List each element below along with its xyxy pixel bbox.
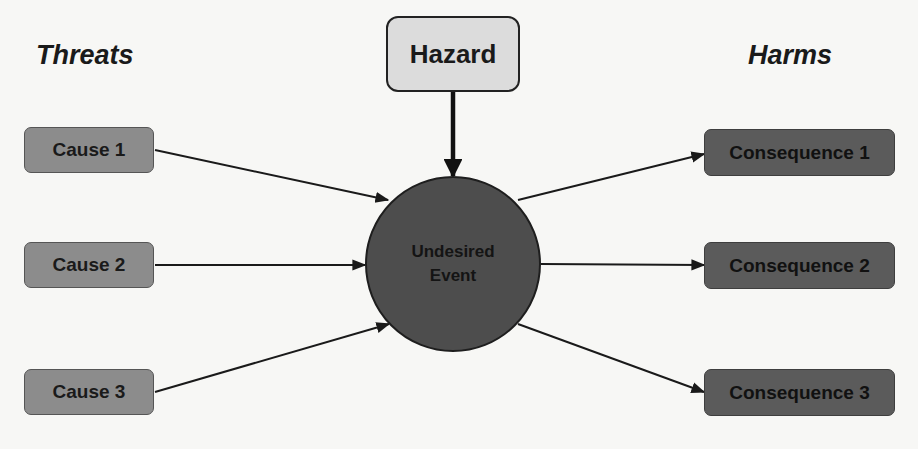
- cause-label: Cause 3: [53, 381, 126, 403]
- consequence-label: Consequence 3: [729, 382, 869, 404]
- consequence-box-1: Consequence 1: [704, 129, 895, 176]
- consequence-label: Consequence 1: [729, 142, 869, 164]
- cause-label: Cause 2: [53, 254, 126, 276]
- arrow-event-to-consequence-2: [541, 264, 704, 265]
- hazard-label: Hazard: [410, 39, 497, 70]
- arrow-event-to-consequence-3: [518, 324, 704, 392]
- consequence-box-3: Consequence 3: [704, 369, 895, 416]
- cause-label: Cause 1: [53, 139, 126, 161]
- hazard-box: Hazard: [386, 16, 520, 92]
- consequence-box-2: Consequence 2: [704, 242, 895, 289]
- undesired-event-circle: Undesired Event: [365, 176, 541, 352]
- bowtie-diagram: Threats Harms Hazard Cause 1 Cause 2 Cau…: [0, 0, 918, 449]
- event-label-line-2: Event: [430, 264, 476, 288]
- arrow-cause-3-to-event: [155, 324, 389, 392]
- event-label-line-1: Undesired: [411, 240, 494, 264]
- cause-box-3: Cause 3: [24, 369, 154, 415]
- consequence-label: Consequence 2: [729, 255, 869, 277]
- threats-heading: Threats: [36, 40, 134, 71]
- arrow-cause-1-to-event: [155, 150, 388, 200]
- harms-heading: Harms: [748, 40, 832, 71]
- arrow-event-to-consequence-1: [518, 154, 704, 200]
- cause-box-1: Cause 1: [24, 127, 154, 173]
- cause-box-2: Cause 2: [24, 242, 154, 288]
